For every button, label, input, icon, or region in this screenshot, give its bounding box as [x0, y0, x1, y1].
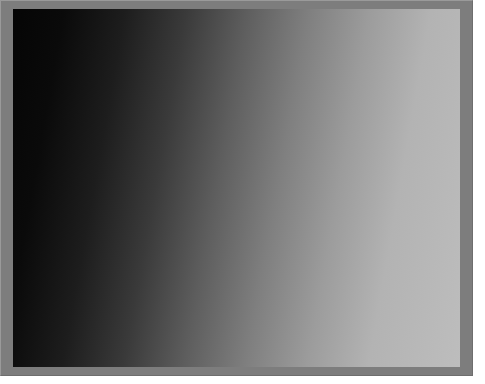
planetary-surface-photo	[13, 9, 460, 367]
photo-mount-frame	[0, 0, 473, 376]
screenshot-root	[0, 0, 485, 384]
terrain-gradient-fallback	[13, 9, 460, 367]
